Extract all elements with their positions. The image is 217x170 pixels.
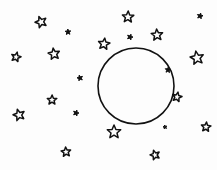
star-icon — [61, 147, 71, 156]
star-icon — [74, 110, 79, 116]
star-icon — [190, 51, 203, 64]
star-icon — [163, 125, 167, 129]
star-icon — [77, 75, 83, 81]
star-icon — [107, 125, 120, 138]
star-icon — [151, 29, 162, 40]
moon-circle — [98, 48, 174, 124]
star-icon — [150, 150, 159, 160]
star-icon — [65, 29, 71, 35]
star-icon — [99, 38, 110, 49]
star-icon — [47, 95, 57, 104]
star-icon — [122, 11, 133, 22]
star-icon — [128, 34, 134, 40]
star-icon — [12, 52, 21, 62]
sketch-canvas — [0, 0, 217, 170]
star-icon — [48, 48, 59, 59]
moon-and-stars-drawing — [0, 0, 217, 170]
star-icon — [35, 16, 46, 27]
star-icon — [173, 92, 182, 102]
star-icon — [201, 122, 211, 131]
star-icon — [13, 109, 24, 120]
star-icon — [197, 13, 203, 19]
